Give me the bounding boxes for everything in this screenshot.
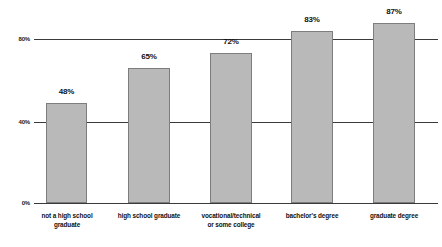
- y-tick-label-40: 40%: [2, 119, 30, 125]
- bar-high-school-graduate: [128, 68, 170, 203]
- category-label-line: graduate degree: [349, 212, 439, 221]
- bar-vocational-technical-or-some-college: [210, 53, 252, 203]
- category-label-line: or some college: [186, 221, 276, 230]
- category-label-line: bachelor's degree: [267, 212, 357, 221]
- bar-chart: 80% 40% 0% 48% 65% 72% 83% 87% not a hig…: [0, 0, 442, 247]
- category-label-line: graduate: [22, 221, 112, 230]
- category-label-line: high school graduate: [104, 212, 194, 221]
- bar-graduate-degree: [373, 23, 415, 203]
- y-tick-label-0: 0%: [2, 200, 30, 206]
- bar-value-label: 65%: [128, 53, 170, 61]
- bar-not-a-high-school-graduate: [46, 103, 87, 203]
- bar-bachelors-degree: [291, 31, 333, 203]
- y-tick-label-80: 80%: [2, 36, 30, 42]
- category-label-high-school-graduate: high school graduate: [104, 212, 194, 221]
- plot-area: 80% 40% 0% 48% 65% 72% 83% 87% not a hig…: [0, 0, 442, 247]
- category-label-vocational-technical-or-some-college: vocational/technical or some college: [186, 212, 276, 229]
- category-label-bachelors-degree: bachelor's degree: [267, 212, 357, 221]
- bar-value-label: 87%: [373, 8, 415, 16]
- category-label-line: vocational/technical: [186, 212, 276, 221]
- category-label-line: not a high school: [22, 212, 112, 221]
- bar-value-label: 83%: [291, 16, 333, 24]
- bar-value-label: 48%: [46, 88, 87, 96]
- category-label-not-a-high-school-graduate: not a high school graduate: [22, 212, 112, 229]
- bar-value-label: 72%: [210, 38, 252, 46]
- category-label-graduate-degree: graduate degree: [349, 212, 439, 221]
- axis-baseline-0: [34, 203, 438, 204]
